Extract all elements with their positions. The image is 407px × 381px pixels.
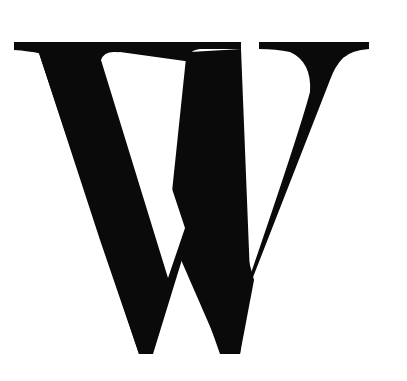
letter-w-glyph — [0, 0, 407, 381]
